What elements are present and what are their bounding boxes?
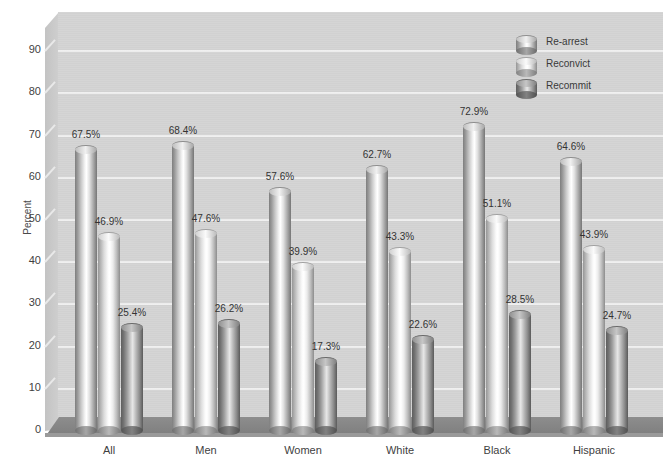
bar-women-re-arrest[interactable]	[269, 187, 291, 430]
x-axis-label-hispanic: Hispanic	[549, 445, 639, 456]
bar-men-recommit[interactable]	[218, 319, 240, 430]
bar-value-label: 24.7%	[594, 311, 640, 321]
bar-top-cap	[509, 310, 531, 319]
bar-bottom-cap	[75, 426, 97, 435]
bar-value-label: 25.4%	[109, 308, 155, 318]
bar-men-reconvict[interactable]	[195, 229, 217, 430]
bar-body	[606, 331, 628, 430]
legend-label: Re-arrest	[546, 36, 588, 48]
bar-white-reconvict[interactable]	[389, 247, 411, 430]
bar-body	[75, 150, 97, 430]
bar-body	[195, 234, 217, 430]
bar-hispanic-re-arrest[interactable]	[560, 157, 582, 430]
bar-top-cap	[315, 357, 337, 366]
bar-bottom-cap	[121, 426, 143, 435]
bar-black-re-arrest[interactable]	[463, 122, 485, 430]
bar-top-cap	[269, 187, 291, 196]
bar-bottom-cap	[463, 426, 485, 435]
bar-bottom-cap	[98, 426, 120, 435]
bar-value-label: 39.9%	[280, 247, 326, 257]
bar-top-cap	[606, 326, 628, 335]
bar-body	[486, 219, 508, 430]
bar-body	[366, 170, 388, 430]
bar-bottom-cap	[606, 426, 628, 435]
bar-bottom-cap	[560, 426, 582, 435]
x-axis-label-women: Women	[258, 445, 348, 456]
bar-hispanic-recommit[interactable]	[606, 326, 628, 430]
bar-value-label: 47.6%	[183, 214, 229, 224]
legend-item-re-arrest[interactable]: Re-arrest	[516, 33, 646, 55]
bar-body	[412, 340, 434, 430]
bar-black-reconvict[interactable]	[486, 214, 508, 430]
bar-value-label: 28.5%	[497, 295, 543, 305]
legend-swatch-base	[516, 69, 537, 77]
bar-men-re-arrest[interactable]	[172, 141, 194, 430]
bar-body	[172, 146, 194, 430]
bar-bottom-cap	[412, 426, 434, 435]
bar-value-label: 57.6%	[257, 172, 303, 182]
bar-body	[583, 250, 605, 430]
bar-all-reconvict[interactable]	[98, 232, 120, 430]
legend-swatch-icon	[516, 57, 537, 73]
legend-item-reconvict[interactable]: Reconvict	[516, 55, 646, 77]
bar-bottom-cap	[389, 426, 411, 435]
x-axis-label-all: All	[64, 445, 154, 456]
bar-black-recommit[interactable]	[509, 310, 531, 430]
legend-swatch-cap	[516, 79, 537, 87]
legend-item-recommit[interactable]: Recommit	[516, 77, 646, 99]
bar-all-recommit[interactable]	[121, 323, 143, 430]
bar-value-label: 67.5%	[63, 130, 109, 140]
bar-top-cap	[121, 323, 143, 332]
bar-bottom-cap	[486, 426, 508, 435]
bar-value-label: 43.3%	[377, 232, 423, 242]
bar-body	[121, 328, 143, 430]
bar-value-label: 43.9%	[571, 230, 617, 240]
bar-bottom-cap	[366, 426, 388, 435]
bar-white-re-arrest[interactable]	[366, 165, 388, 430]
bar-value-label: 62.7%	[354, 150, 400, 160]
bar-value-label: 51.1%	[474, 199, 520, 209]
bar-body	[269, 192, 291, 430]
bar-body	[218, 324, 240, 430]
bar-body	[509, 315, 531, 430]
bar-top-cap	[292, 262, 314, 271]
legend: Re-arrestReconvictRecommit	[516, 33, 646, 99]
bar-bottom-cap	[218, 426, 240, 435]
bar-bottom-cap	[195, 426, 217, 435]
x-axis-label-men: Men	[161, 445, 251, 456]
bar-women-recommit[interactable]	[315, 357, 337, 430]
bar-value-label: 64.6%	[548, 142, 594, 152]
bar-bottom-cap	[509, 426, 531, 435]
legend-swatch-icon	[516, 35, 537, 51]
legend-label: Recommit	[546, 80, 591, 92]
bar-bottom-cap	[269, 426, 291, 435]
bar-value-label: 46.9%	[86, 217, 132, 227]
legend-swatch-base	[516, 91, 537, 99]
bar-white-recommit[interactable]	[412, 335, 434, 430]
bar-value-label: 22.6%	[400, 320, 446, 330]
x-axis-label-black: Black	[452, 445, 542, 456]
bar-value-label: 17.3%	[303, 342, 349, 352]
bar-chart: Percent 9080706050403020100 67.5%46.9%25…	[0, 0, 663, 469]
bar-top-cap	[412, 335, 434, 344]
legend-swatch-cap	[516, 35, 537, 43]
bar-value-label: 26.2%	[206, 304, 252, 314]
bar-body	[315, 362, 337, 430]
bar-value-label: 68.4%	[160, 126, 206, 136]
bar-bottom-cap	[172, 426, 194, 435]
bar-top-cap	[583, 245, 605, 254]
bar-all-re-arrest[interactable]	[75, 145, 97, 430]
legend-label: Reconvict	[546, 58, 590, 70]
bar-bottom-cap	[583, 426, 605, 435]
legend-swatch-icon	[516, 79, 537, 95]
bar-bottom-cap	[292, 426, 314, 435]
bar-body	[98, 237, 120, 430]
bar-body	[560, 162, 582, 430]
bar-body	[389, 252, 411, 430]
legend-swatch-cap	[516, 57, 537, 65]
bar-body	[463, 127, 485, 430]
bar-bottom-cap	[315, 426, 337, 435]
legend-swatch-base	[516, 47, 537, 55]
bar-hispanic-reconvict[interactable]	[583, 245, 605, 430]
bar-value-label: 72.9%	[451, 107, 497, 117]
